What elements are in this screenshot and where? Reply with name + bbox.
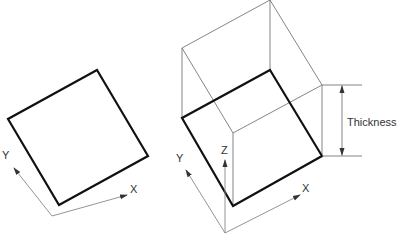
right-z-label: Z xyxy=(221,145,228,156)
left-x-label: X xyxy=(130,184,137,195)
left-axes xyxy=(14,168,127,216)
right-figure xyxy=(182,0,362,233)
right-x-label: X xyxy=(302,183,309,194)
left-y-label: Y xyxy=(2,150,9,161)
right-x-axis xyxy=(225,195,300,233)
left-y-axis xyxy=(14,168,52,216)
cube-top-face xyxy=(182,0,322,133)
cube-bottom-face-outline xyxy=(182,70,322,206)
cube-thin-edges xyxy=(182,0,322,206)
left-x-axis xyxy=(52,195,127,216)
right-y-axis xyxy=(186,170,225,233)
thickness-label: Thickness xyxy=(347,117,397,128)
left-figure xyxy=(8,70,148,216)
diagram-canvas xyxy=(0,0,402,250)
right-y-label: Y xyxy=(176,153,183,164)
right-axes xyxy=(186,160,300,233)
left-square-outline xyxy=(8,70,148,205)
